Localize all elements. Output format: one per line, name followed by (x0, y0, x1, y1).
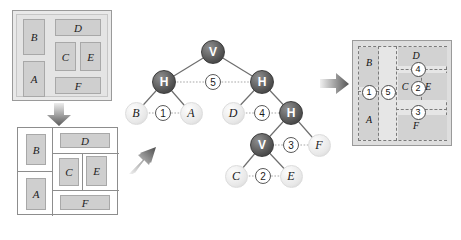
tree-leaf-f[interactable]: F (308, 134, 331, 157)
tree-node-label: B (132, 106, 139, 121)
tree-leaf-e[interactable]: E (280, 165, 303, 188)
annotated-cut-2[interactable]: 2 (411, 81, 426, 96)
panel-annotated-floorplan: B A D C E F 1 5 2 4 3 (352, 40, 452, 146)
tree-node-label: A (187, 106, 194, 121)
tree-leaf-a[interactable]: A (180, 102, 203, 125)
tree-cut-marker-1[interactable]: 1 (155, 105, 171, 121)
label-text: C (402, 81, 409, 92)
tree-leaf-d[interactable]: D (222, 102, 245, 125)
cut-marker-label: 2 (260, 171, 266, 182)
annotated-cut-4[interactable]: 4 (411, 62, 426, 77)
tree-node-h-left[interactable]: H (152, 70, 176, 94)
cut-circle-label: 2 (415, 83, 420, 93)
tree-cut-marker-3[interactable]: 3 (283, 137, 299, 153)
tree-node-label: C (232, 169, 240, 184)
tree-node-label: V (209, 45, 217, 59)
annotated-label-a: A (366, 114, 372, 125)
tree-cut-marker-4[interactable]: 4 (254, 105, 270, 121)
tree-cut-marker-2[interactable]: 2 (255, 168, 271, 184)
annotated-cut-3[interactable]: 3 (411, 105, 426, 120)
tree-node-label: H (160, 75, 169, 89)
dashed-cut-vertical-5 (396, 46, 397, 141)
tree-node-label: D (229, 106, 238, 121)
cut-circle-label: 1 (366, 87, 371, 97)
annotated-cut-1[interactable]: 1 (362, 85, 377, 100)
annotated-label-d: D (412, 50, 419, 61)
tree-leaf-b[interactable]: B (125, 102, 148, 125)
tree-leaf-c[interactable]: C (225, 165, 248, 188)
cut-marker-label: 4 (259, 108, 265, 119)
cut-marker-label: 1 (160, 108, 166, 119)
annotated-label-e: E (425, 81, 431, 92)
annotated-label-c: C (402, 81, 409, 92)
tree-node-label: V (258, 138, 266, 152)
cut-circle-label: 4 (415, 64, 420, 74)
label-text: D (412, 50, 419, 61)
cut-marker-label: 3 (288, 140, 294, 151)
dashed-cut-vertical-1 (378, 46, 379, 141)
label-text: E (425, 81, 431, 92)
tree-node-label: F (315, 138, 322, 153)
label-text: A (366, 114, 372, 125)
tree-node-label: H (287, 106, 296, 120)
cut-circle-label: 3 (415, 107, 420, 117)
cut-circle-label: 5 (385, 87, 390, 97)
cut-marker-label: 5 (210, 77, 216, 88)
label-text: B (366, 57, 372, 68)
tree-node-v-root[interactable]: V (201, 40, 225, 64)
annotated-label-f: F (413, 120, 419, 131)
tree-node-label: E (287, 169, 294, 184)
annotated-label-b: B (366, 57, 372, 68)
tree-node-v-low[interactable]: V (250, 133, 274, 157)
tree-cut-marker-5[interactable]: 5 (205, 74, 221, 90)
label-text: F (413, 120, 419, 131)
tree-node-label: H (258, 75, 267, 89)
tree-node-h-low[interactable]: H (279, 101, 303, 125)
annotated-cut-5[interactable]: 5 (381, 85, 396, 100)
tree-node-h-right[interactable]: H (250, 70, 274, 94)
